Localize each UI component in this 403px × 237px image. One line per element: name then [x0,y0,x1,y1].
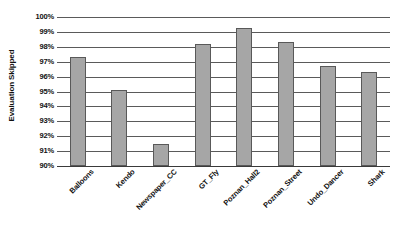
bar [320,66,336,166]
bar-chart: Evaluation Skipped 100%99%98%97%96%95%94… [0,0,403,237]
bar [153,144,169,166]
bar [111,90,127,166]
x-axis-tick-label: Poznan_Street [262,168,303,209]
y-axis-tick-label: 98% [20,43,54,51]
y-axis-tick-label: 96% [20,73,54,81]
bar [195,44,211,166]
y-axis-title-label: Evaluation Skipped [7,49,16,121]
y-axis-tick-label: 100% [20,13,54,21]
x-axis-tick-label: Shark [367,168,387,188]
bar [236,28,252,166]
y-axis-tick-label: 91% [20,147,54,155]
y-axis-tick-label: 93% [20,118,54,126]
bars-series [57,17,390,166]
x-axis-tick-label: Undo_Dancer [306,168,345,207]
y-axis-tick-label: 95% [20,88,54,96]
x-axis-tick-label: Kendo [115,168,136,189]
bar [361,72,377,166]
y-axis-tick-label: 99% [20,28,54,36]
bar [70,57,86,167]
x-axis-tick-labels: BalloonsKendoNewspaper_CCGT_FlyPoznan_Ha… [57,168,390,237]
plot-area [57,17,390,166]
bar [278,42,294,166]
x-axis-tick-label: GT_Fly [197,168,220,191]
x-axis-tick-label: Poznan_Hall2 [223,168,262,207]
y-axis-tick-label: 97% [20,58,54,66]
x-axis-tick-label: Newspaper_CC [135,168,178,211]
y-axis-tick-label: 94% [20,103,54,111]
y-axis-tick-label: 92% [20,132,54,140]
y-axis-tick-label: 90% [20,162,54,170]
x-axis-tick-label: Balloons [68,168,95,195]
y-axis-tick-labels: 100%99%98%97%96%95%94%93%92%91%90% [20,17,54,166]
y-axis-title: Evaluation Skipped [0,0,22,170]
